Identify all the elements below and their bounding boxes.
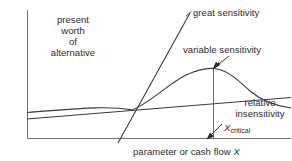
- arrow-x-critical: [207, 124, 223, 140]
- y-axis-label-line-3: of: [34, 36, 112, 47]
- x-axis-label: parameter or cash flow X: [133, 146, 240, 157]
- y-axis-label-line-4: alternative: [34, 47, 112, 58]
- sensitivity-analysis-figure: present worth of alternative great sensi…: [0, 0, 292, 161]
- label-relative-insensitivity-line-2: insensitivity: [230, 108, 290, 119]
- y-axis-label-line-1: present: [34, 14, 112, 25]
- curve-great-sensitivity: [118, 13, 190, 143]
- y-axis-label: present worth of alternative: [34, 14, 112, 58]
- label-x-critical: Xcritical: [224, 122, 250, 134]
- arrow-variable-sensitivity: [213, 56, 230, 70]
- x-axis-label-text: parameter or cash flow: [133, 146, 233, 157]
- label-great-sensitivity: great sensitivity: [193, 7, 259, 18]
- label-relative-insensitivity: relative insensitivity: [230, 97, 290, 119]
- x-axis-label-symbol: X: [233, 146, 239, 157]
- label-relative-insensitivity-line-1: relative: [230, 97, 290, 108]
- x-critical-subscript: critical: [230, 127, 250, 134]
- y-axis-label-line-2: worth: [34, 25, 112, 36]
- label-variable-sensitivity: variable sensitivity: [183, 44, 261, 55]
